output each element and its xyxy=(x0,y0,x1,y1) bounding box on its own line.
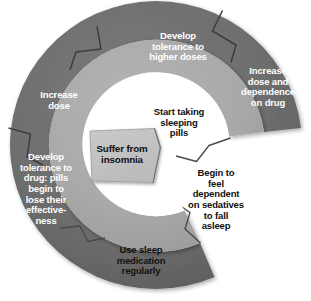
spiral-cycle-diagram: Develop tolerance to higher doses Increa… xyxy=(0,0,311,301)
spiral-graphic xyxy=(0,0,311,301)
core-box xyxy=(90,129,160,183)
core-box-group xyxy=(90,129,160,183)
divider-inner-1 xyxy=(176,138,231,162)
